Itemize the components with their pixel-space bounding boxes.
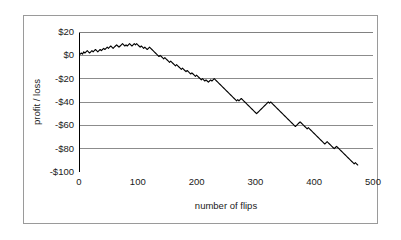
y-tick-label: -$80 [55,144,74,154]
x-tick-label: 300 [247,177,263,187]
y-tick-label: -$20 [55,74,74,84]
x-tick-label: 500 [365,177,381,187]
x-tick-label: 0 [76,177,81,187]
plot-area: $20$0-$20-$40-$60-$80-$100 0100200300400… [79,32,373,172]
x-tick-label: 100 [130,177,146,187]
data-series-group [79,44,358,165]
y-tick-label: -$60 [55,121,74,131]
y-axis-title: profit / loss [32,32,46,172]
x-tick-label: 200 [189,177,205,187]
x-tick-label: 400 [306,177,322,187]
x-axis-title: number of flips [79,201,373,211]
y-tick-label: $20 [58,27,74,37]
y-tick-label: -$100 [50,167,74,177]
y-tick-label: $0 [63,51,74,61]
y-tick-label: -$40 [55,97,74,107]
plot-svg [79,32,373,172]
chart-frame: $20$0-$20-$40-$60-$80-$100 0100200300400… [23,15,378,224]
chart-figure: $20$0-$20-$40-$60-$80-$100 0100200300400… [0,0,401,240]
gridlines-group [79,32,373,172]
data-line-series [79,44,358,165]
